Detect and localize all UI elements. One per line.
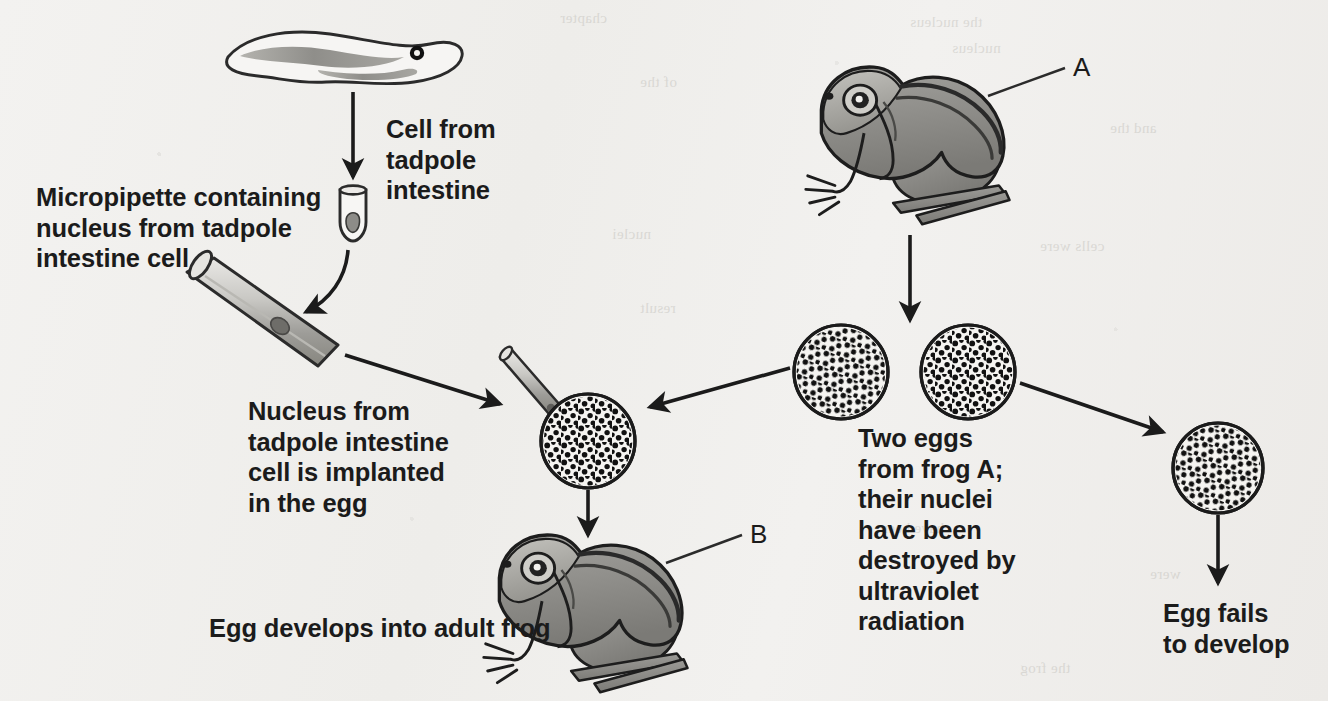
figure-canvas: the nucleusnucleuschapterof theand thece… — [0, 0, 1328, 701]
leader-line-frog-b — [666, 535, 742, 563]
egg-with-implanted-nucleus — [541, 394, 635, 488]
adult-frog-a — [806, 67, 1010, 224]
arrow-right-egg-to-failed-egg — [1020, 383, 1163, 432]
label-egg-fails-to-develop: Egg fails to develop — [1163, 598, 1290, 659]
label-nucleus-implanted-in-egg: Nucleus from tadpole intestine cell is i… — [248, 396, 449, 518]
diagram-graphics — [0, 0, 1328, 701]
leader-line-frog-a — [988, 68, 1065, 96]
enucleated-egg-right — [921, 325, 1015, 419]
undeveloped-egg — [1173, 423, 1263, 513]
label-two-eggs-from-frog-a: Two eggs from frog A; their nuclei have … — [858, 423, 1016, 637]
injection-pipette — [498, 345, 560, 414]
tadpole — [227, 32, 463, 84]
label-frog-b-tag: B — [750, 519, 767, 550]
arrow-left-egg-to-injected-egg — [650, 368, 790, 407]
label-micropipette-containing-nucleus: Micropipette containing nucleus from tad… — [36, 182, 321, 274]
label-egg-develops-into-adult-frog: Egg develops into adult frog — [209, 613, 550, 644]
test-tube — [340, 186, 366, 241]
label-cell-from-tadpole-intestine: Cell from tadpole intestine — [386, 114, 496, 206]
label-frog-a-tag: A — [1073, 52, 1090, 83]
enucleated-egg-left — [794, 325, 888, 419]
